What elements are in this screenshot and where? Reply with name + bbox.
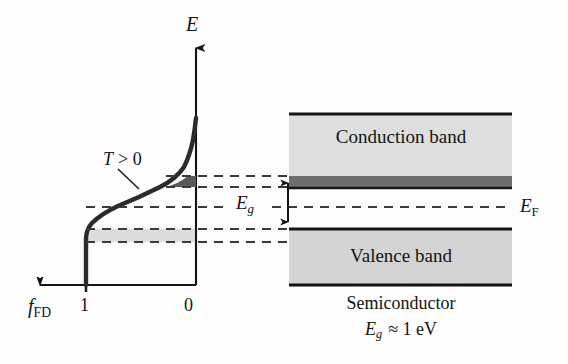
caption-gap-subscript: g [376, 327, 382, 341]
fermi-dirac-curve [86, 118, 196, 285]
temperature-condition: > 0 [118, 149, 142, 169]
x-axis-label: fFD [28, 296, 51, 319]
band-gap-label: Eg [236, 193, 254, 216]
valence-band-label: Valence band [290, 246, 512, 265]
caption-gap-value: ≈ 1 eV [388, 319, 437, 339]
fermi-level-subscript: F [532, 204, 539, 219]
fermi-level-label: EF [520, 196, 539, 219]
y-axis-label: E [186, 14, 198, 34]
band-gap-subscript: g [248, 201, 254, 216]
temperature-annotation: T> 0 [103, 150, 142, 168]
caption-gap-symbol: E [365, 319, 376, 339]
plot-valence-shading [86, 229, 196, 242]
caption-band-gap: Eg≈ 1 eV [290, 320, 512, 341]
conduction-band-occupied-strip [289, 176, 512, 187]
caption-material: Semiconductor [290, 294, 512, 312]
semiconductor-band-diagram-figure: E fFD 1 0 T> 0 Eg EF Conduction band Val… [0, 0, 568, 364]
temperature-symbol: T [103, 149, 113, 169]
conduction-band-label: Conduction band [290, 127, 512, 146]
x-tick-label-one: 1 [80, 296, 89, 314]
annotation-leader-line [118, 169, 139, 189]
band-gap-symbol: E [236, 192, 248, 213]
fermi-level-symbol: E [520, 195, 532, 216]
x-tick-label-zero: 0 [184, 296, 193, 314]
x-axis-label-subscript: FD [34, 305, 52, 320]
